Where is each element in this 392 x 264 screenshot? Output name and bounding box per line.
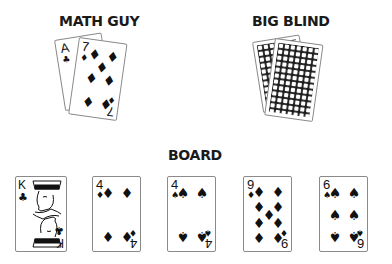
card-rank: K (56, 237, 64, 249)
card-rank: 4 (130, 237, 137, 249)
diamond-pip: ♦ (272, 185, 285, 199)
spade-pip: ♠ (348, 208, 361, 222)
board-label: BOARD (168, 147, 222, 163)
board-card-six-spades: 6 ♠ ♠ ♠ ♠ ♠ ♠ ♠ ♠ 6 (319, 176, 368, 252)
spade-pip: ♠ (329, 230, 342, 244)
card-rank: K (18, 179, 26, 191)
diamond-icon: ♦ (107, 95, 116, 105)
player-name-math-guy: MATH GUY (59, 13, 139, 29)
spade-pip: ♠ (348, 186, 361, 200)
board-card-nine-diamonds: 9 ♦ ♦ ♦ ♦ ♦ ♦ ♦ ♦ ♦ ♦ ♦ 9 (243, 176, 292, 252)
card-back-pattern (269, 43, 319, 118)
spade-pip: ♠ (329, 208, 342, 222)
diamond-pip: ♦ (102, 186, 115, 200)
spade-pip: ♠ (177, 230, 190, 244)
diamond-pip: ♦ (253, 231, 266, 245)
board-card-four-spades: 4 ♠ ♠ ♠ ♠ ♠ ♠ 4 (167, 176, 216, 252)
card-rank: 9 (281, 237, 288, 249)
diamond-pip: ♦ (102, 73, 116, 89)
board-card-king-clubs: K ♣ ♣ K (15, 176, 67, 252)
spade-pip: ♠ (177, 186, 190, 200)
club-icon: ♣ (54, 226, 64, 235)
card-rank: 7 (106, 105, 115, 118)
diamond-pip: ♦ (102, 230, 115, 244)
hole-card-face-down (264, 38, 323, 122)
diamond-pip: ♦ (81, 94, 95, 110)
diamond-pip: ♦ (253, 216, 266, 230)
club-icon: ♣ (62, 55, 71, 65)
diamond-pip: ♦ (84, 70, 98, 86)
diamond-pip: ♦ (121, 186, 134, 200)
hole-card-seven-diamonds: 7 ♦ ♦ ♦ ♦ ♦ ♦ ♦ ♦ 7 ♦ (68, 37, 127, 121)
player-name-big-blind: BIG BLIND (252, 13, 330, 29)
spade-pip: ♠ (329, 186, 342, 200)
spade-pip: ♠ (196, 186, 209, 200)
board-card-four-diamonds: 4 ♦ ♦ ♦ ♦ ♦ ♦ 4 (92, 176, 141, 252)
club-icon: ♣ (18, 193, 28, 202)
card-rank: 4 (205, 237, 212, 249)
diamond-pip: ♦ (253, 185, 266, 199)
card-rank: 6 (357, 237, 364, 249)
